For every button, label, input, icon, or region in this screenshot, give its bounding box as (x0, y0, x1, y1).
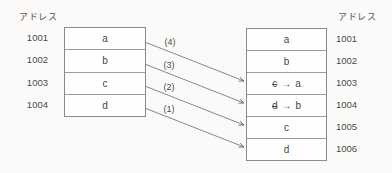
copy-arrow-order-label: (2) (164, 82, 175, 92)
copy-arrow-line (146, 87, 244, 126)
copy-arrow-order-label: (4) (165, 37, 176, 47)
copy-arrow-order-label: (3) (164, 60, 175, 70)
copy-arrow-line (146, 109, 244, 148)
memory-copy-diagram: アドレス アドレス 1001 1002 1003 1004 a b c d a … (0, 0, 392, 173)
copy-arrow-order-label: (1) (164, 104, 175, 114)
copy-arrow-line (146, 65, 244, 104)
copy-arrow-line (146, 43, 244, 82)
copy-arrows: (4) (3) (2) (1) (0, 0, 392, 173)
